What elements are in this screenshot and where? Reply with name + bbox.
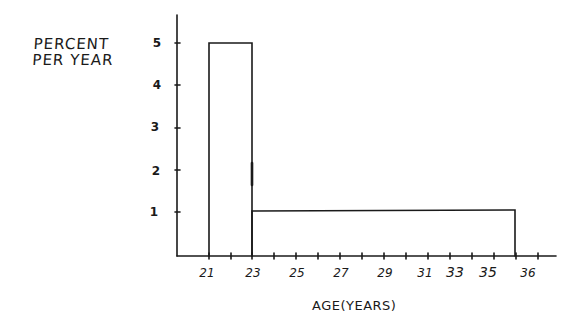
- x-tick-label-35: 35: [473, 264, 503, 280]
- x-tick-label-23: 23: [238, 266, 268, 280]
- y-tick-label-2: 2: [149, 164, 163, 178]
- histogram-plot: [0, 0, 581, 336]
- x-tick-label-33: 33: [440, 264, 470, 280]
- y-tick-label-5: 5: [150, 36, 164, 50]
- y-tick-label-1: 1: [147, 205, 161, 219]
- y-tick-label-4: 4: [150, 78, 164, 92]
- x-tick-label-21: 21: [192, 266, 222, 280]
- x-tick-label-25: 25: [282, 266, 312, 280]
- x-axis-title: AGE(YEARS): [312, 298, 396, 313]
- histogram-bar-21-23: [209, 43, 252, 256]
- x-tick-label-29: 29: [370, 266, 400, 280]
- y-tick-label-3: 3: [148, 120, 162, 134]
- x-tick-label-31: 31: [410, 266, 440, 280]
- histogram-bar-23-35: [252, 210, 515, 256]
- x-tick-label-36: 36: [513, 266, 543, 280]
- x-tick-label-27: 27: [326, 266, 356, 280]
